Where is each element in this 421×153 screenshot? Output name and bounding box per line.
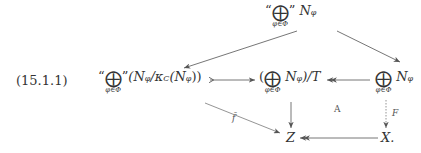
- x-label: X.: [381, 130, 394, 145]
- term-n: N: [299, 3, 310, 18]
- expr-part: )): [191, 69, 201, 84]
- subscript-phi: φ: [311, 8, 317, 17]
- node-z: Z: [286, 131, 295, 144]
- arrow-top-to-left: [184, 31, 297, 68]
- term-n: N: [285, 69, 296, 84]
- node-middle: (⨁φ∈Φ Nφ)/T: [259, 70, 320, 94]
- z-label: Z: [286, 130, 295, 145]
- quote-close: ”: [289, 3, 296, 18]
- arrow-left-to-z: [205, 103, 280, 133]
- node-top: “⨁φ∈Φ” Nφ: [265, 4, 316, 28]
- direct-sum-symbol: ⨁φ∈Φ: [264, 70, 281, 94]
- node-left: “⨁φ∈Φ”(Nφ/κC(Nφ)): [98, 70, 202, 94]
- quotient-t: )/T: [302, 69, 320, 84]
- expr-part: /κ: [150, 69, 163, 84]
- node-x: X.: [381, 131, 394, 144]
- direct-sum-symbol: ⨁φ∈Φ: [272, 4, 289, 28]
- equation-number: (15.1.1): [16, 74, 68, 87]
- label-f-bar: f̄: [232, 113, 235, 123]
- expr-part: (N: [169, 69, 185, 84]
- expr-part: (N: [128, 69, 144, 84]
- arrow-top-to-right: [337, 31, 400, 62]
- equation-label: (15.1.1): [16, 73, 68, 88]
- quote-open: “: [98, 69, 105, 84]
- quote-open: “: [265, 3, 272, 18]
- node-right: ⨁φ∈Φ Nφ: [375, 70, 413, 94]
- direct-sum-symbol: ⨁φ∈Φ: [375, 70, 392, 94]
- term-n: N: [396, 69, 407, 84]
- label-A: A: [334, 104, 341, 114]
- direct-sum-symbol: ⨁φ∈Φ: [105, 70, 122, 94]
- subscript-phi: φ: [408, 74, 414, 83]
- label-F: F: [392, 108, 398, 118]
